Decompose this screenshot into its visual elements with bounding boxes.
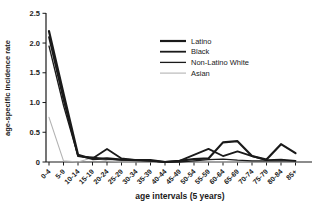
x-tick-label: 10-14 [63,168,81,186]
y-tick-label: 0 [36,158,40,167]
y-tick-label: 2.0 [30,39,40,48]
x-tick-label: 75-79 [252,168,270,186]
y-axis-title: age-specific incidence rate [3,40,12,136]
data-series-lines [49,31,296,162]
x-tick-label: 85+ [285,168,298,181]
incidence-line-chart-figure: 00.51.01.52.02.5 0-45-910-1415-1920-2425… [0,0,336,214]
x-axis-ticks: 0-45-910-1415-1920-2425-2930-3435-3940-4… [40,162,299,185]
series-line-latino [49,31,296,162]
x-tick-label: 50-54 [179,168,197,186]
chart-legend: LatinoBlackNon-Latino WhiteAsian [160,37,249,78]
legend-label-non-latino-white: Non-Latino White [191,58,249,67]
chart-canvas: 00.51.01.52.02.5 0-45-910-1415-1920-2425… [0,0,336,214]
legend-label-latino: Latino [191,37,211,46]
x-tick-label: 20-24 [92,168,110,186]
y-tick-label: 1.0 [30,98,40,107]
y-tick-label: 0.5 [30,128,40,137]
y-axis-ticks: 00.51.01.52.02.5 [30,9,46,167]
series-line-non-latino-white [49,46,296,162]
legend-label-black: Black [191,47,210,56]
x-tick-label: 65-69 [223,168,241,186]
x-axis-title: age intervals (5 years) [135,191,224,201]
x-tick-label: 30-34 [121,168,139,186]
x-tick-label: 0-4 [40,168,52,180]
x-tick-label: 80-84 [266,168,284,186]
legend-label-asian: Asian [191,69,210,78]
x-tick-label: 15-19 [78,168,96,186]
x-tick-label: 25-29 [107,168,125,186]
x-tick-label: 55-59 [194,168,212,186]
x-tick-label: 70-74 [237,168,255,186]
y-tick-label: 1.5 [30,68,40,77]
series-line-black [49,37,296,162]
x-tick-label: 35-39 [136,168,154,186]
series-line-asian [49,117,296,162]
x-tick-label: 40-44 [150,168,168,186]
x-tick-label: 60-64 [208,168,226,186]
x-tick-label: 45-49 [165,168,183,186]
y-tick-label: 2.5 [30,9,40,18]
